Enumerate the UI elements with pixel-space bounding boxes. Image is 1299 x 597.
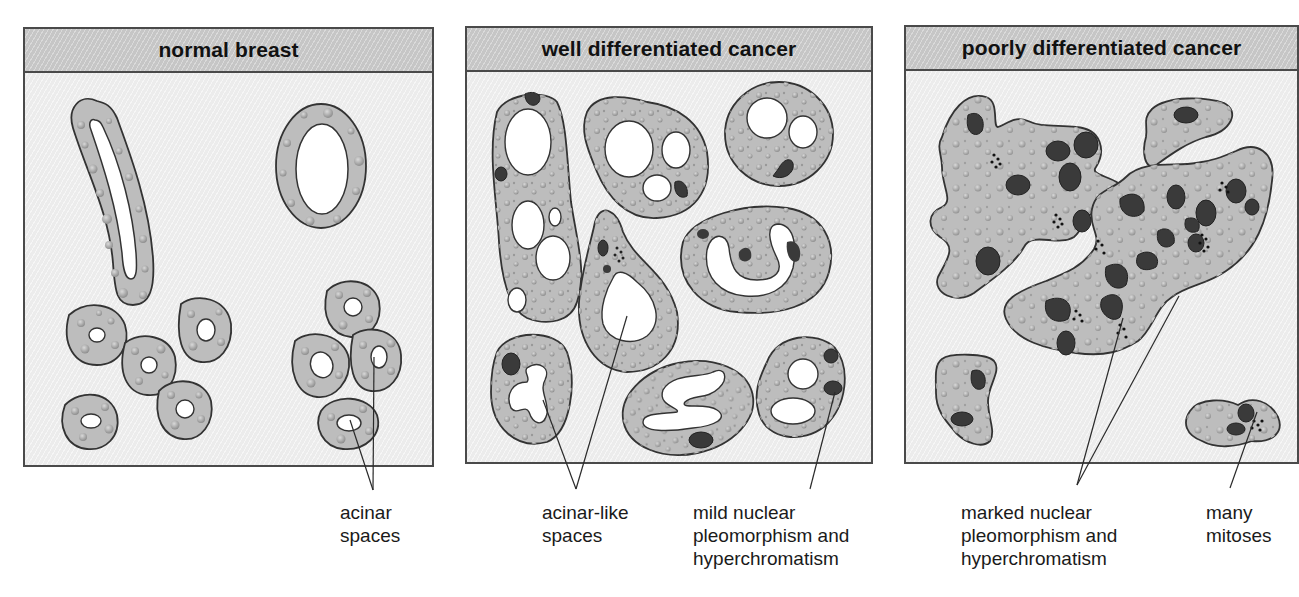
tumor-fragment-top-right xyxy=(1144,98,1232,166)
acini-cluster-left xyxy=(62,298,231,449)
gland-central xyxy=(579,211,678,372)
label-marked-nuclear-pleomorphism: marked nuclear pleomorphism and hyperchr… xyxy=(961,501,1117,570)
label-acinar-like-spaces: acinar-like spaces xyxy=(542,501,629,547)
label-many-mitoses: many mitoses xyxy=(1206,501,1271,547)
panel-well-differentiated-cancer: well differentiated cancer xyxy=(465,26,873,464)
acini-cluster-right xyxy=(292,281,401,449)
gland-bottom-right xyxy=(757,337,845,437)
well-differentiated-illustration xyxy=(467,72,871,462)
gland-upper-right xyxy=(725,82,833,186)
oval-acinus xyxy=(276,104,366,228)
gland-upper-middle xyxy=(584,97,708,218)
panel-title-normal-breast: normal breast xyxy=(25,29,432,73)
panel-poorly-differentiated-cancer: poorly differentiated cancer xyxy=(904,25,1299,464)
curved-duct xyxy=(72,99,154,305)
gland-right-middle xyxy=(681,207,831,313)
panel-title-poorly-differentiated-cancer: poorly differentiated cancer xyxy=(906,27,1297,71)
label-acinar-spaces: acinar spaces xyxy=(340,501,400,547)
normal-breast-illustration xyxy=(25,73,432,465)
poorly-differentiated-illustration xyxy=(906,71,1297,462)
panel-normal-breast: normal breast xyxy=(23,27,434,467)
tumor-fragment-bottom-left xyxy=(936,355,997,445)
panel-title-well-differentiated-cancer: well differentiated cancer xyxy=(467,28,871,72)
tumor-fragment-bottom-right xyxy=(1186,400,1280,446)
gland-bottom-left xyxy=(491,335,572,444)
gland-tall-left xyxy=(493,92,582,321)
label-mild-nuclear-pleomorphism: mild nuclear pleomorphism and hyperchrom… xyxy=(693,501,849,570)
